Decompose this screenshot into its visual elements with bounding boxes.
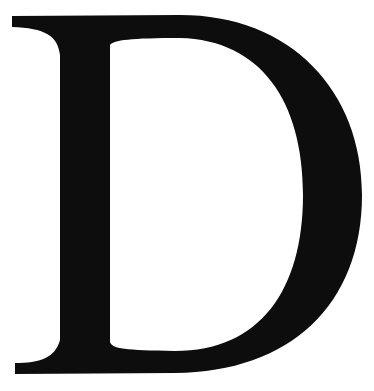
letter-d-icon: D	[0, 0, 374, 391]
letter-d-glyph: D	[0, 0, 374, 391]
